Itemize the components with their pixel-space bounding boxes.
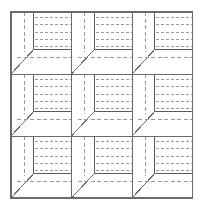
- diagonal-edge-r1c2: [132, 111, 155, 136]
- figure-root: [0, 0, 203, 210]
- diagonal-edge-r2c2: [132, 173, 155, 198]
- diagonal-edge-r0c2: [132, 49, 155, 74]
- diagonal-edge-r2c0: [11, 173, 34, 198]
- diagonal-edge-r2c1: [72, 173, 95, 198]
- diagonal-edge-r1c1: [72, 111, 95, 136]
- diagonal-edge-r0c0: [11, 49, 34, 74]
- diagonal-edge-r1c0: [11, 111, 34, 136]
- grid-figure-svg: [0, 0, 203, 210]
- diagonal-edge-r0c1: [72, 49, 95, 74]
